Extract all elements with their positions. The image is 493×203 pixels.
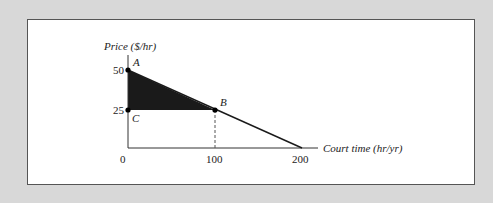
- x-tick-100: 100: [206, 153, 223, 165]
- x-tick-200: 200: [292, 153, 309, 165]
- chart-svg: Price ($/hr) Court time (hr/yr) 50 25 0 …: [0, 0, 493, 203]
- point-a-label: A: [132, 56, 140, 68]
- y-tick-25: 25: [113, 104, 125, 116]
- point-b-label: B: [220, 96, 227, 108]
- point-b-marker: [212, 107, 217, 112]
- point-c-label: C: [132, 112, 140, 124]
- point-c-marker: [125, 107, 130, 112]
- y-axis-title: Price ($/hr): [103, 40, 157, 53]
- point-a-marker: [125, 67, 130, 72]
- x-tick-0: 0: [120, 153, 126, 165]
- y-tick-50: 50: [113, 64, 125, 76]
- x-axis-title: Court time (hr/yr): [323, 142, 403, 155]
